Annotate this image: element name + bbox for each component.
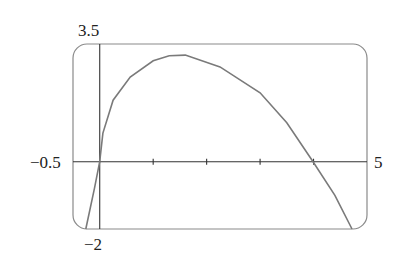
function-curve bbox=[86, 55, 352, 229]
x-max-label: 5 bbox=[374, 154, 383, 171]
x-min-label: −0.5 bbox=[30, 154, 61, 171]
function-plot bbox=[0, 0, 408, 272]
axes bbox=[73, 44, 367, 229]
plot-frame bbox=[73, 44, 367, 229]
y-max-label: 3.5 bbox=[78, 22, 99, 39]
y-min-label: −2 bbox=[84, 236, 102, 253]
